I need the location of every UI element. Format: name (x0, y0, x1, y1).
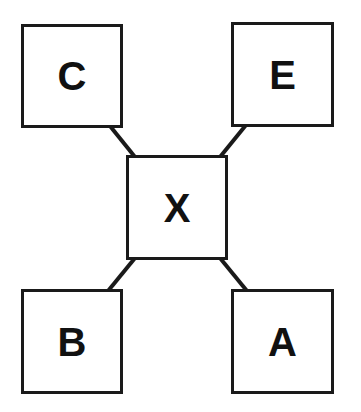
edge-x-c (110, 126, 135, 157)
edge-x-a (220, 258, 247, 291)
node-c-label: C (58, 56, 87, 96)
node-c: C (21, 24, 123, 128)
node-b: B (21, 289, 123, 394)
node-a-label: A (268, 322, 297, 362)
node-e-label: E (269, 55, 296, 95)
node-a: A (231, 289, 334, 394)
node-e: E (231, 22, 334, 127)
node-b-label: B (58, 322, 87, 362)
edge-x-e (220, 125, 246, 157)
node-x: X (126, 155, 228, 260)
edge-x-b (108, 258, 135, 291)
node-x-label: X (164, 188, 191, 228)
